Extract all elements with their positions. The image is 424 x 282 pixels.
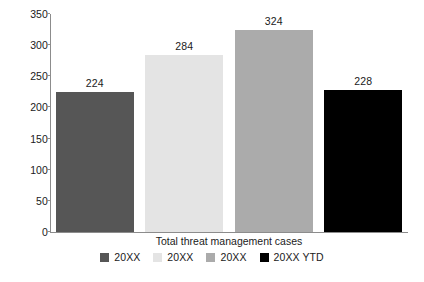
x-axis-title: Total threat management cases: [50, 235, 408, 248]
y-axis-tick-mark: [47, 13, 50, 14]
y-axis-tick: 350: [0, 9, 48, 19]
legend-item[interactable]: 20XX YTD: [260, 252, 324, 263]
y-axis-tick: 250: [0, 71, 48, 81]
legend-item-label: 20XX: [167, 252, 193, 263]
legend-item[interactable]: 20XX: [100, 252, 140, 263]
y-axis-tick: 300: [0, 40, 48, 50]
bar[interactable]: [145, 55, 223, 232]
bar[interactable]: [235, 30, 313, 232]
legend-item[interactable]: 20XX: [153, 252, 193, 263]
y-axis-tick-mark: [47, 75, 50, 76]
y-axis-tick-label: 150: [4, 134, 48, 144]
y-axis-tick: 0: [0, 227, 48, 237]
bar-value-label: 324: [223, 16, 325, 27]
y-axis-tick-label: 200: [4, 102, 48, 112]
y-axis-tick: 200: [0, 102, 48, 112]
y-axis-tick-mark: [47, 138, 50, 139]
y-axis-tick-label: 250: [4, 71, 48, 81]
bar-value-label: 284: [133, 41, 235, 52]
chart-legend: 20XX20XX20XX20XX YTD: [0, 252, 424, 263]
y-axis-tick-label: 300: [4, 40, 48, 50]
legend-swatch-icon: [100, 253, 109, 262]
legend-swatch-icon: [153, 253, 162, 262]
y-axis-tick: 50: [0, 196, 48, 206]
y-axis-tick-mark: [47, 169, 50, 170]
legend-item[interactable]: 20XX: [206, 252, 246, 263]
legend-item-label: 20XX: [114, 252, 140, 263]
legend-item-label: 20XX YTD: [274, 252, 324, 263]
legend-swatch-icon: [260, 253, 269, 262]
bar[interactable]: [56, 92, 134, 232]
y-axis-tick-label: 0: [4, 227, 48, 237]
bar-value-label: 228: [312, 76, 414, 87]
y-axis-tick-label: 350: [4, 9, 48, 19]
y-axis-tick-mark: [47, 200, 50, 201]
y-axis-tick-mark: [47, 106, 50, 107]
y-axis-tick: 100: [0, 165, 48, 175]
y-axis-tick-label: 100: [4, 165, 48, 175]
bar-value-label: 224: [44, 78, 146, 89]
bar-chart: 050100150200250300350 224284324228 Total…: [0, 0, 424, 282]
y-axis-tick: 150: [0, 134, 48, 144]
legend-swatch-icon: [206, 253, 215, 262]
y-axis-tick-label: 50: [4, 196, 48, 206]
y-axis-line: [50, 14, 51, 233]
bar[interactable]: [324, 90, 402, 232]
y-axis-tick-mark: [47, 44, 50, 45]
legend-item-label: 20XX: [220, 252, 246, 263]
x-axis-line: [50, 232, 408, 233]
